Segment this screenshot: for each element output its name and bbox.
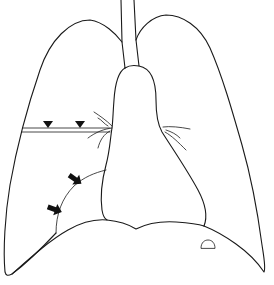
chest-diagram: [0, 0, 274, 285]
left-lung: [136, 15, 265, 272]
arrow-upper: [66, 170, 85, 188]
hilar-vessels-left: [163, 127, 190, 150]
horizontal-fissure: [22, 128, 110, 132]
hilar-vessels-right: [88, 112, 112, 148]
arrowhead-2: [75, 121, 85, 128]
right-lung: [4, 20, 122, 275]
diagram-svg: [0, 0, 274, 285]
gastric-bubble: [201, 240, 215, 248]
opacity-arrows: [46, 170, 85, 217]
trachea: [121, 0, 139, 68]
mediastinum: [101, 66, 206, 226]
arrow-lower: [46, 201, 64, 217]
diaphragm: [12, 220, 204, 274]
fissure-arrowheads: [43, 121, 85, 128]
arrowhead-1: [43, 121, 53, 128]
